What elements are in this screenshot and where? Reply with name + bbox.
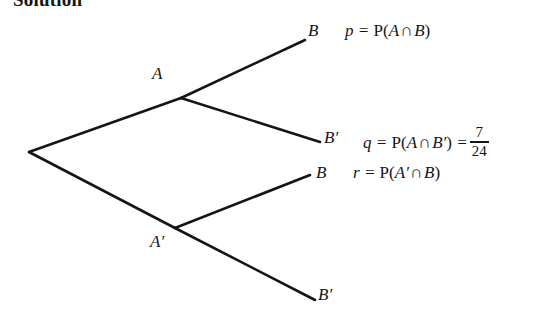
leaf-label-b-prime-upper: B′ xyxy=(324,128,338,148)
equation-p-equals: = xyxy=(358,21,369,40)
branch-A-prime-to-B xyxy=(175,175,310,228)
probability-tree-diagram xyxy=(0,0,560,327)
branch-root-to-A-prime xyxy=(29,152,175,228)
equation-q-left-event: A xyxy=(407,133,417,152)
fraction-denominator: 24 xyxy=(470,144,489,159)
branch-root-to-A xyxy=(29,98,181,152)
intersection-icon: ∩ xyxy=(418,133,430,152)
branch-A-to-B xyxy=(181,40,305,98)
document-page: Solution A A′ B B′ B B′ p = P(A ∩ B) q =… xyxy=(0,0,560,327)
equation-r-right-event: B xyxy=(424,163,434,182)
equation-p: p = P(A ∩ B) xyxy=(345,21,430,41)
equation-q-equals-2: = xyxy=(456,133,467,152)
equation-r-close-paren: ) xyxy=(434,163,440,182)
equation-q-variable: q xyxy=(363,133,372,152)
equation-r-equals: = xyxy=(364,163,375,182)
equation-r-variable: r xyxy=(353,163,360,182)
equation-q: q = P(A ∩ B′) =724 xyxy=(363,125,489,159)
fraction-7-24: 724 xyxy=(470,125,489,159)
equation-p-variable: p xyxy=(345,21,354,40)
equation-q-right-event: B′ xyxy=(432,133,446,152)
leaf-label-b-lower: B xyxy=(316,163,326,183)
equation-r-left-event: A′ xyxy=(395,163,409,182)
leaf-label-b-prime-bottom: B′ xyxy=(318,285,332,305)
fraction-numerator: 7 xyxy=(470,125,489,140)
leaf-label-b-top: B xyxy=(308,21,318,41)
equation-q-prob-symbol: P xyxy=(391,133,400,152)
branch-A-prime-to-B-prime xyxy=(175,228,315,300)
intersection-icon: ∩ xyxy=(400,21,412,40)
equation-r: r = P(A′ ∩ B) xyxy=(353,163,440,183)
equation-p-right-event: B xyxy=(414,21,424,40)
equation-p-left-event: A xyxy=(389,21,399,40)
intersection-icon: ∩ xyxy=(410,163,422,182)
equation-q-equals: = xyxy=(376,133,387,152)
equation-r-prob-symbol: P xyxy=(380,163,389,182)
equation-p-prob-symbol: P xyxy=(373,21,382,40)
equation-q-close-paren: ) xyxy=(446,133,452,152)
equation-p-close-paren: ) xyxy=(425,21,431,40)
node-label-A: A xyxy=(152,64,162,84)
node-label-A-prime: A′ xyxy=(150,232,164,252)
branch-A-to-B-prime xyxy=(181,98,320,142)
